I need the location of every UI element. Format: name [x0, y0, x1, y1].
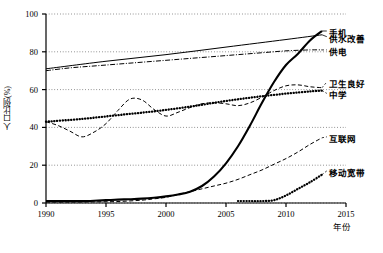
y-axis-title: 人口比例(%)	[2, 86, 13, 130]
x-tick-label: 1990	[29, 209, 63, 219]
axis-ticks	[42, 14, 346, 207]
series-label-1: 供水改善	[329, 32, 365, 44]
series-label-6: 移动宽带	[329, 166, 365, 178]
series-leader-4	[322, 91, 327, 94]
series-line-3	[46, 85, 322, 137]
series-line-1	[46, 35, 322, 69]
x-axis-title: 年份	[333, 220, 351, 232]
series-label-3: 卫生良好	[329, 77, 365, 89]
series-line-4	[46, 91, 322, 122]
x-tick-label: 2005	[209, 209, 243, 219]
y-tick-label: 40	[16, 122, 38, 132]
axis-lines	[46, 14, 346, 203]
gridlines	[46, 14, 346, 203]
series-label-5: 互联网	[329, 132, 356, 144]
figure-caption	[0, 246, 383, 253]
series-line-2	[46, 50, 322, 71]
series-line-6	[238, 175, 322, 202]
y-tick-label: 80	[16, 47, 38, 57]
chart-figure: 人口比例(%) 年份 100806040200 1990199520002005…	[0, 0, 383, 253]
series-label-4: 中学	[329, 88, 347, 100]
y-tick-label: 100	[16, 9, 38, 19]
series-line-0	[46, 31, 322, 201]
series-leader-5	[322, 137, 327, 138]
x-tick-label: 2010	[269, 209, 303, 219]
series-leader-6	[322, 171, 327, 175]
y-tick-label: 20	[16, 160, 38, 170]
series-label-2: 供电	[329, 45, 347, 57]
series-leader-3	[322, 82, 327, 88]
x-tick-label: 1995	[89, 209, 123, 219]
x-tick-label: 2015	[329, 209, 363, 219]
x-tick-label: 2000	[149, 209, 183, 219]
y-tick-label: 0	[16, 198, 38, 208]
series-leader-1	[322, 35, 327, 37]
y-tick-label: 60	[16, 85, 38, 95]
series-paths	[46, 31, 327, 202]
